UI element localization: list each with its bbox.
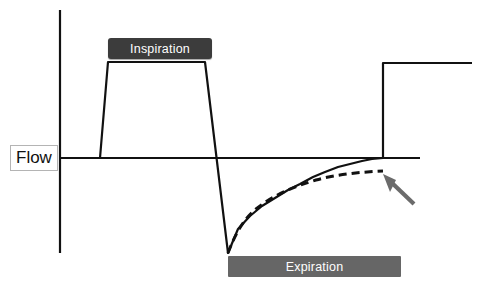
axis-label-flow: Flow [10,145,58,171]
expiration-phase-label: Expiration [228,256,401,277]
flow-waveform-figure: Flow Inspiration Expiration [0,0,481,288]
callout-arrow-icon [383,174,414,204]
inspiration-phase-label: Inspiration [108,38,212,59]
air-trapping-expiratory-flow-line [228,171,383,253]
waveform-canvas [0,0,481,288]
